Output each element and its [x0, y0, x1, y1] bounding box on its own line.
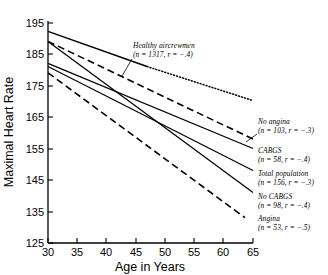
y-tick-label-165: 165 [26, 111, 44, 123]
chart-figure: 195 185 175 165 155 145 135 125 30 35 40… [0, 0, 328, 275]
annotation-cabgs: CABGS (n = 58, r = −.4) [258, 146, 311, 164]
x-tick-label-50: 50 [159, 246, 171, 258]
x-tick-label-45: 45 [130, 246, 142, 258]
x-axis-ticks [48, 238, 253, 243]
annotation-angina-label: Angina [257, 214, 280, 223]
maximal-heart-rate-line-chart: 195 185 175 165 155 145 135 125 30 35 40… [0, 0, 328, 275]
annotation-cabgs-stats: (n = 58, r = −.4) [258, 155, 311, 164]
x-tick-label-40: 40 [100, 246, 112, 258]
y-tick-label-185: 185 [26, 48, 44, 60]
y-axis-title: Maximal Heart Rate [2, 77, 16, 187]
y-axis-ticks [48, 23, 53, 243]
annotation-no-angina-leader [246, 134, 257, 142]
annotation-healthy-aircrewmen-leader [122, 59, 132, 76]
annotation-angina-stats: (n = 53, r = −.5) [258, 223, 311, 232]
annotation-no-cabgs-label: No CABGS [257, 192, 292, 201]
series-line-no-cabgs [48, 41, 253, 192]
x-tick-label-55: 55 [188, 246, 200, 258]
y-tick-label-155: 155 [26, 143, 44, 155]
x-tick-label-60: 60 [217, 246, 229, 258]
annotation-healthy-aircrewmen-label: Healthy aircrewmen [132, 41, 195, 50]
x-axis-title: Age in Years [115, 260, 185, 274]
series-line-cabgs [48, 63, 253, 148]
x-axis-tick-labels: 30 35 40 45 50 55 60 65 [42, 246, 259, 258]
annotation-total-population-stats: (n = 156, r = −.3) [258, 178, 314, 187]
annotation-total-population: Total population (n = 156, r = −.3) [258, 169, 314, 187]
y-tick-label-175: 175 [26, 80, 44, 92]
y-tick-label-145: 145 [26, 174, 44, 186]
annotation-cabgs-label: CABGS [258, 146, 282, 155]
annotation-healthy-aircrewmen-stats: (n = 1317, r = −.4) [133, 50, 193, 59]
annotation-no-angina: No angina (n = 103, r = −.3) [246, 117, 314, 142]
annotation-no-cabgs: No CABGS (n = 98, r = −.4) [257, 192, 311, 210]
x-tick-label-65: 65 [247, 246, 259, 258]
y-tick-label-195: 195 [26, 17, 44, 29]
annotation-no-angina-label: No angina [257, 117, 290, 126]
y-axis-tick-labels: 195 185 175 165 155 145 135 125 [26, 17, 44, 249]
series-line-total-population [48, 67, 253, 171]
series-line-angina [48, 73, 245, 218]
y-tick-label-135: 135 [26, 206, 44, 218]
x-tick-label-30: 30 [42, 246, 54, 258]
x-tick-label-35: 35 [71, 246, 83, 258]
annotation-total-population-label: Total population [258, 169, 309, 178]
annotation-no-angina-stats: (n = 103, r = −.3) [258, 126, 314, 135]
annotation-no-cabgs-stats: (n = 98, r = −.4) [258, 201, 311, 210]
annotation-angina: Angina (n = 53, r = −.5) [257, 214, 311, 232]
